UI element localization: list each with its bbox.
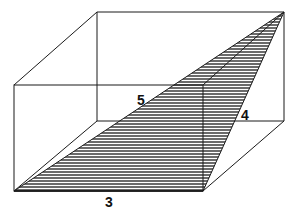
prism-diagram: 5 4 3 <box>0 0 294 212</box>
shaded-triangle <box>14 12 284 191</box>
diagonal-label: 5 <box>137 92 145 108</box>
base-label: 3 <box>105 194 113 210</box>
side-label: 4 <box>241 107 249 123</box>
